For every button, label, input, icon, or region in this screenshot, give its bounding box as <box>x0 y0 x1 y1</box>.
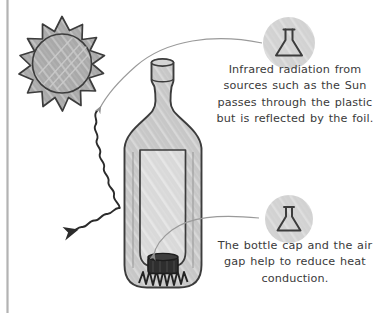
wavy-reflected-ray-icon <box>73 111 120 232</box>
callout-badge-cap[interactable] <box>265 195 313 243</box>
badge-circle <box>265 195 313 243</box>
inner-container-icon <box>140 150 186 267</box>
figure-canvas: Infrared radiation from sources such as … <box>0 0 376 313</box>
sun-icon <box>19 17 105 112</box>
callout-text-infrared: Infrared radiation from sources such as … <box>216 62 374 128</box>
callout-text-cap: The bottle cap and the air gap help to r… <box>216 238 374 287</box>
